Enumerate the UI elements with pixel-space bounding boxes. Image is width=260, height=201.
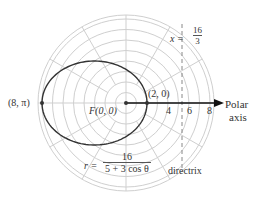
grid-spoke (144, 114, 202, 148)
directrix-denominator: 3 (193, 35, 202, 46)
polar-axis-label-line1: Polar (225, 99, 248, 110)
label-focus: F(0, 0) (89, 106, 117, 116)
curve-fraction: 16 5 + 3 cos θ (103, 152, 151, 174)
point-vertex-left (40, 101, 44, 105)
directrix-numerator: 16 (191, 26, 204, 35)
grid-spoke (82, 27, 116, 85)
polar-axis-arrow-icon (214, 99, 224, 107)
grid-spoke (50, 59, 108, 93)
tick-4: 4 (166, 106, 171, 116)
grid-spoke (50, 114, 108, 148)
directrix-fraction: 16 3 (191, 26, 204, 46)
tick-6: 6 (187, 106, 192, 116)
label-vertex-left: (8, π) (8, 98, 30, 108)
curve-numerator: 16 (120, 152, 134, 162)
tick-8: 8 (207, 106, 212, 116)
point-vertex-right (145, 101, 149, 105)
polar-diagram: (8, π) F(0, 0) (2, 0) 4 6 8 Polar axis x… (0, 0, 260, 201)
grid-spoke (137, 27, 171, 85)
curve-equation-lhs: r = (84, 161, 97, 171)
curve-denominator: 5 + 3 cos θ (103, 162, 151, 174)
label-vertex-right: (2, 0) (148, 89, 170, 99)
point-focus (124, 101, 128, 105)
directrix-equation-lhs: x = (170, 34, 184, 44)
polar-axis-label-line2: axis (229, 112, 247, 123)
directrix-label: directrix (168, 166, 202, 176)
